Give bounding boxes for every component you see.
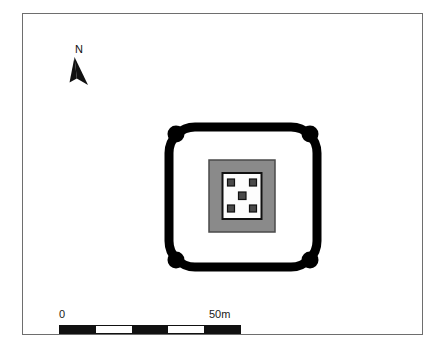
corner-bastion-northwest (168, 126, 185, 143)
scale-bar-segment (96, 326, 132, 333)
post-hole-northwest (228, 179, 235, 186)
site-plan-drawing (153, 109, 333, 284)
scale-bar: 0 50m (59, 308, 241, 338)
scale-bar-segment (132, 326, 168, 333)
scale-bar-start-label: 0 (59, 308, 65, 321)
scale-bar-end-label: 50m (209, 308, 230, 321)
corner-bastion-southwest (168, 252, 185, 269)
post-hole-center (239, 192, 247, 200)
scale-bar-segment (204, 326, 240, 333)
post-hole-southwest (228, 205, 235, 212)
north-arrow-icon (75, 57, 89, 85)
post-hole-northeast (250, 179, 257, 186)
scale-bar-track (59, 325, 241, 334)
corner-bastion-southeast (302, 252, 319, 269)
scale-bar-segment (168, 326, 204, 333)
scale-bar-segment (60, 326, 96, 333)
post-hole-southeast (250, 205, 257, 212)
north-arrow: N (61, 41, 97, 89)
plan-frame: N 0 (22, 13, 423, 335)
north-arrow-label: N (75, 43, 83, 55)
corner-bastion-northeast (302, 126, 319, 143)
